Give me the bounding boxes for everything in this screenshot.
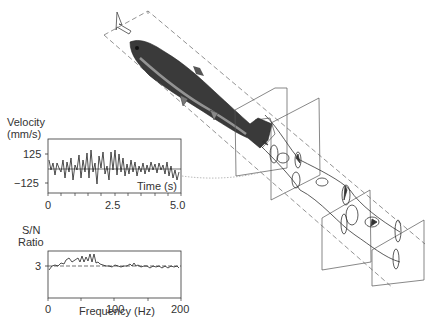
dotted-connector: [182, 172, 262, 178]
sn-xtick-0: 0: [45, 303, 51, 315]
sn-chart: [45, 251, 181, 301]
velocity-trace: [49, 150, 179, 184]
velocity-ytick-bottom: −125: [14, 177, 39, 189]
sn-xtick-2: 200: [171, 303, 189, 315]
wake-planes: [235, 88, 424, 286]
velocity-xtick-1: 2.5: [105, 199, 120, 211]
velocity-yunit: (mm/s): [7, 128, 41, 140]
velocity-ytick-top: 125: [23, 148, 41, 160]
flow-arrow-icon: [116, 12, 131, 34]
velocity-ylabel: Velocity: [7, 116, 45, 128]
figure-canvas: [0, 0, 435, 317]
sn-ytick: 3: [35, 260, 41, 272]
velocity-xtick-0: 0: [45, 199, 51, 211]
velocity-xlabel: Time (s): [137, 180, 177, 192]
sn-xlabel: Frequency (Hz): [79, 305, 155, 317]
sn-ylabel: S/N: [22, 224, 40, 236]
vortex-wake: [260, 115, 401, 269]
velocity-xtick-2: 5.0: [170, 199, 185, 211]
sn-yunit: Ratio: [18, 236, 44, 248]
sn-trace: [49, 254, 179, 270]
